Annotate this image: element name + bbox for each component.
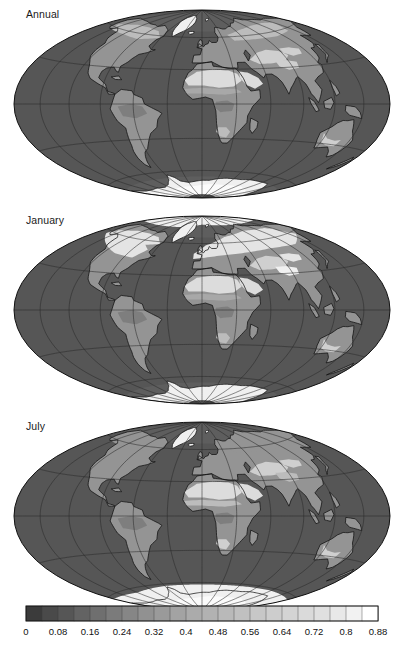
panel-label-july: July (26, 420, 45, 432)
colorbar-cell-9 (170, 606, 186, 621)
albedo-map-figure: Annual January July 00.080.160.240.320.4… (0, 0, 404, 651)
colorbar-cell-6 (122, 606, 138, 621)
colorbar-tick-0: 0 (23, 626, 28, 637)
colorbar-cell-21 (362, 606, 378, 621)
panel-label-january: January (26, 214, 64, 226)
colorbar-cell-5 (106, 606, 122, 621)
colorbar-tick-10: 0.8 (339, 626, 352, 637)
colorbar-cell-0 (26, 606, 42, 621)
colorbar-tick-1: 0.08 (49, 626, 68, 637)
colorbar-cell-10 (186, 606, 202, 621)
colorbar-cell-8 (154, 606, 170, 621)
map-panel-january: January (0, 206, 404, 413)
colorbar-cell-14 (250, 606, 266, 621)
colorbar-cell-19 (330, 606, 346, 621)
colorbar-cell-3 (74, 606, 90, 621)
colorbar-tick-6: 0.48 (209, 626, 228, 637)
colorbar-tick-3: 0.24 (113, 626, 132, 637)
colorbar-cell-15 (266, 606, 282, 621)
colorbar-cell-18 (314, 606, 330, 621)
colorbar-tick-labels: 00.080.160.240.320.40.480.560.640.720.80… (0, 626, 404, 646)
colorbar-cell-16 (282, 606, 298, 621)
colorbar-cell-2 (58, 606, 74, 621)
colorbar-tick-8: 0.64 (273, 626, 292, 637)
colorbar-tick-5: 0.4 (179, 626, 192, 637)
colorbar-tick-9: 0.72 (305, 626, 324, 637)
colorbar-tick-7: 0.56 (241, 626, 260, 637)
colorbar-cell-7 (138, 606, 154, 621)
colorbar: 00.080.160.240.320.40.480.560.640.720.80… (0, 600, 404, 651)
colorbar-cell-11 (202, 606, 218, 621)
colorbar-cell-4 (90, 606, 106, 621)
colorbar-cell-1 (42, 606, 58, 621)
panel-label-annual: Annual (26, 8, 59, 20)
colorbar-cell-13 (234, 606, 250, 621)
map-canvas-annual (0, 0, 404, 207)
colorbar-cell-20 (346, 606, 362, 621)
colorbar-tick-4: 0.32 (145, 626, 164, 637)
map-canvas-july (0, 412, 404, 619)
colorbar-cell-17 (298, 606, 314, 621)
map-panel-july: July (0, 412, 404, 619)
colorbar-cell-12 (218, 606, 234, 621)
map-panel-annual: Annual (0, 0, 404, 207)
colorbar-tick-11: 0.88 (369, 626, 388, 637)
map-canvas-january (0, 206, 404, 413)
colorbar-tick-2: 0.16 (81, 626, 100, 637)
